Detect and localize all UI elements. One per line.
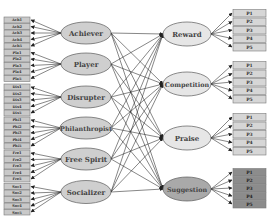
node-label: Competition xyxy=(165,81,210,89)
node-label: Socializer xyxy=(67,188,106,197)
indicator-label: Pla5 xyxy=(13,77,22,81)
node-label: Free Spirit xyxy=(65,155,108,164)
node-label: Philanthropist xyxy=(60,125,112,133)
indicator-label: Soc5 xyxy=(12,211,22,215)
item-label: P5 xyxy=(246,45,253,50)
item-label: P2 xyxy=(246,71,253,76)
item-label: P3 xyxy=(246,186,253,191)
indicator-label: Dis4 xyxy=(12,105,22,109)
cross-connections xyxy=(111,33,163,192)
item-label: P1 xyxy=(246,63,253,68)
item-label: P3 xyxy=(246,80,253,85)
item-label: P3 xyxy=(246,28,253,33)
indicator-label: Phi3 xyxy=(12,131,22,135)
indicator-label: Ach4 xyxy=(11,38,23,42)
group-philanthropist: Phi1 Phi2 Phi3 Phi4 Phi5 Philanthropist xyxy=(4,117,112,149)
indicator-label: Pla3 xyxy=(13,64,22,68)
group-disrupter: Dis1 Dis2 Dis3 Dis4 Dis5 Disrupter xyxy=(4,84,111,116)
indicator-label: Fre5 xyxy=(12,177,22,181)
indicator-label: Dis2 xyxy=(12,92,22,96)
indicator-label: Dis1 xyxy=(12,85,22,89)
node-label: Disrupter xyxy=(67,93,105,102)
item-label: P1 xyxy=(246,11,253,16)
indicator-label: Soc1 xyxy=(12,185,22,189)
indicator-label: Phi1 xyxy=(12,118,22,122)
item-label: P2 xyxy=(246,19,253,24)
node-label: Suggestion xyxy=(167,186,208,194)
indicator-label: Pla1 xyxy=(13,51,22,55)
group-praise: Praise P1 P2 P3 P4 P5 xyxy=(163,114,266,156)
item-label: P5 xyxy=(246,202,253,207)
indicator-label: Ach3 xyxy=(11,31,23,35)
indicator-label: Fre3 xyxy=(12,164,22,168)
indicator-label: Soc2 xyxy=(12,191,22,195)
group-competition: Competition P1 P2 P3 P4 P5 xyxy=(163,62,266,104)
item-label: P3 xyxy=(246,132,253,137)
indicator-label: Fre2 xyxy=(12,158,22,162)
indicator-label: Dis3 xyxy=(12,98,22,102)
indicator-label: Dis5 xyxy=(12,111,22,115)
item-label: P2 xyxy=(246,123,253,128)
group-socializer: Soc1 Soc2 Soc3 Soc4 Soc5 Socializer xyxy=(4,181,111,216)
item-label: P4 xyxy=(246,194,253,199)
indicator-label: Phi2 xyxy=(12,125,22,129)
item-label: P4 xyxy=(246,140,253,145)
group-achiever: Ach1 Ach2 Ach3 Ach4 Ach5 Achiever xyxy=(4,17,111,49)
item-label: P4 xyxy=(246,36,253,41)
group-reward: Reward P1 P2 P3 P4 P5 xyxy=(163,10,266,52)
item-label: P4 xyxy=(246,88,253,93)
item-label: P1 xyxy=(246,115,253,120)
item-label: P2 xyxy=(246,178,253,183)
indicator-label: Pla2 xyxy=(13,57,22,61)
group-free-spirit: Fre1 Fre2 Fre3 Fre4 Fre5 Free Spirit xyxy=(4,148,111,182)
indicator-label: Soc3 xyxy=(12,198,22,202)
item-label: P5 xyxy=(246,97,253,102)
indicator-label: Soc4 xyxy=(12,204,22,208)
node-label: Player xyxy=(74,60,99,69)
indicator-label: Phi5 xyxy=(12,144,22,148)
group-suggestion: Suggestion P1 P2 P3 P4 P5 xyxy=(163,169,266,209)
indicator-label: Pla4 xyxy=(13,70,22,74)
node-label: Reward xyxy=(172,30,202,39)
indicator-label: Fre1 xyxy=(12,151,22,155)
node-label: Praise xyxy=(175,134,200,143)
indicator-label: Ach2 xyxy=(11,25,23,29)
node-label: Achiever xyxy=(68,29,103,38)
indicator-label: Ach1 xyxy=(11,18,23,22)
diagram-canvas: Ach1 Ach2 Ach3 Ach4 Ach5 Achiever Pla1 P… xyxy=(0,0,274,216)
item-label: P1 xyxy=(246,170,253,175)
indicator-label: Phi4 xyxy=(12,138,22,142)
indicator-label: Fre4 xyxy=(12,171,22,175)
item-label: P5 xyxy=(246,149,253,154)
group-player: Pla1 Pla2 Pla3 Pla4 Pla5 Player xyxy=(4,50,111,82)
indicator-label: Ach5 xyxy=(11,44,23,48)
